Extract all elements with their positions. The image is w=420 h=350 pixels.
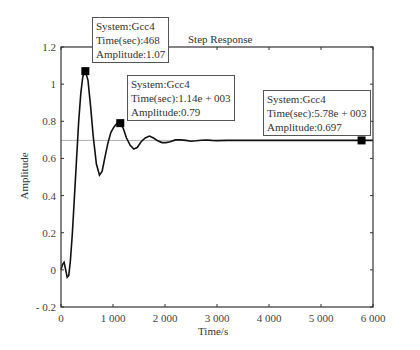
svg-text:1.2: 1.2: [42, 41, 56, 53]
data-tip-system: System:Gcc4: [267, 92, 367, 106]
data-tip-time: Time(sec):5.78e + 003: [267, 106, 367, 120]
data-tip-amplitude: Amplitude:0.697: [267, 120, 367, 134]
svg-text:6 000: 6 000: [361, 312, 386, 324]
data-tip-system: System:Gcc4: [96, 19, 165, 33]
data-tip-system: System:Gcc4: [131, 77, 231, 91]
svg-text:0: 0: [51, 264, 57, 276]
svg-text:0.6: 0.6: [42, 152, 56, 164]
svg-text:1 000: 1 000: [101, 312, 126, 324]
svg-text:2 000: 2 000: [153, 312, 178, 324]
svg-text:0.2: 0.2: [42, 227, 56, 239]
svg-text:- 0.2: - 0.2: [36, 301, 56, 313]
chart-title: Step Response: [188, 33, 252, 45]
svg-text:5 000: 5 000: [309, 312, 334, 324]
data-tip-second-peak[interactable]: System:Gcc4 Time(sec):1.14e + 003 Amplit…: [127, 75, 235, 121]
data-tip-time: Time(sec):1.14e + 003: [131, 91, 231, 105]
step-response-chart: 01 0002 0003 0004 0005 0006 000 - 0.200.…: [0, 0, 420, 350]
data-tip-amplitude: Amplitude:0.79: [131, 105, 231, 119]
svg-text:3 000: 3 000: [205, 312, 230, 324]
svg-text:1: 1: [51, 78, 57, 90]
svg-text:0.8: 0.8: [42, 115, 56, 127]
data-tip-steady-state[interactable]: System:Gcc4 Time(sec):5.78e + 003 Amplit…: [263, 90, 371, 136]
x-axis-label: Time/s: [198, 325, 228, 337]
svg-text:0.4: 0.4: [42, 190, 56, 202]
svg-text:0: 0: [58, 312, 64, 324]
svg-text:4 000: 4 000: [257, 312, 282, 324]
data-tip-amplitude: Amplitude:1.07: [96, 47, 165, 61]
data-tip-peak[interactable]: System:Gcc4 Time(sec):468 Amplitude:1.07: [92, 17, 169, 63]
y-axis-label: Amplitude: [18, 146, 30, 206]
data-tip-time: Time(sec):468: [96, 33, 165, 47]
